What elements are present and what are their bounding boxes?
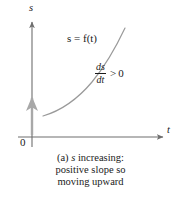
caption-suffix: increasing: bbox=[75, 152, 124, 163]
caption-line-3: moving upward bbox=[0, 176, 181, 188]
figure-caption: (a) s increasing: positive slope so movi… bbox=[0, 152, 181, 187]
increasing-function-figure: s t 0 s = f(t) ds dt > 0 (a) s increasin… bbox=[0, 0, 181, 197]
derivative-numerator: ds bbox=[95, 62, 106, 73]
relation-operator: > bbox=[110, 68, 116, 79]
caption-line-2: positive slope so bbox=[0, 164, 181, 176]
caption-line-1: (a) s increasing: bbox=[0, 152, 181, 164]
t-axis-label: t bbox=[167, 125, 170, 136]
relation-value: 0 bbox=[118, 68, 124, 79]
derivative-denominator: dt bbox=[96, 75, 106, 86]
derivative-annotation: ds dt > 0 bbox=[95, 62, 124, 85]
s-axis-label: s bbox=[29, 3, 33, 14]
derivative-fraction: ds dt bbox=[95, 62, 106, 85]
curve-equation-label: s = f(t) bbox=[67, 33, 97, 44]
origin-label: 0 bbox=[20, 137, 26, 148]
caption-prefix: (a) bbox=[57, 152, 71, 163]
